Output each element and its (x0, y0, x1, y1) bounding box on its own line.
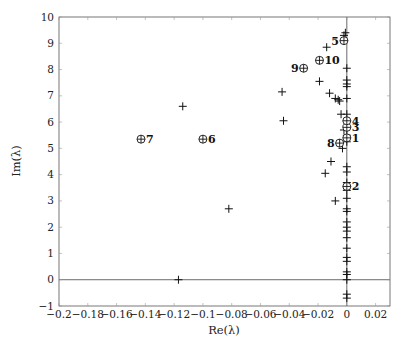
x-tick-label: −0.18 (72, 308, 104, 320)
x-tick-label: −0.1 (190, 308, 216, 320)
y-tick-label: 10 (41, 11, 54, 23)
labeled-eigenvalue-2: 2 (343, 180, 360, 193)
eigenvalue-point (343, 244, 351, 252)
labeled-eigenvalue-6: 6 (199, 133, 216, 146)
point-label: 4 (352, 115, 360, 128)
eigenvalue-point (326, 89, 334, 97)
point-label: 5 (331, 35, 339, 48)
x-tick-label: 0.02 (364, 308, 387, 320)
x-tick-label: −0.04 (273, 308, 305, 320)
circled-plus-markers: 12345678910 (137, 35, 360, 194)
eigenvalue-scatter-chart: −0.2−0.18−0.16−0.14−0.12−0.1−0.08−0.06−0… (0, 0, 403, 352)
eigenvalue-point (280, 117, 288, 125)
eigenvalue-point (323, 43, 331, 51)
eigenvalue-point (321, 169, 329, 177)
eigenvalue-point (179, 102, 187, 110)
point-label: 8 (327, 137, 335, 150)
eigenvalue-point (343, 276, 351, 284)
y-tick-label: 7 (47, 89, 54, 101)
y-tick-label: 1 (47, 247, 54, 259)
eigenvalue-point (343, 257, 351, 265)
point-label: 10 (324, 54, 340, 67)
plot-frame (59, 17, 390, 306)
eigenvalue-point (343, 168, 351, 176)
y-tick-label: −1 (39, 300, 54, 312)
plus-markers (174, 29, 350, 302)
eigenvalue-point (343, 294, 351, 302)
x-tick-label: −0.06 (244, 308, 276, 320)
x-tick-label: −0.14 (129, 308, 161, 320)
eigenvalue-point (225, 205, 233, 213)
eigenvalue-point (315, 77, 323, 85)
eigenvalue-point (278, 88, 286, 96)
eigenvalue-point (343, 64, 351, 72)
point-label: 6 (208, 133, 216, 146)
x-tick-label: −0.02 (302, 308, 334, 320)
labeled-eigenvalue-5: 5 (331, 35, 348, 48)
point-label: 7 (146, 133, 154, 146)
point-label: 2 (352, 180, 360, 193)
x-axis-label: Re(λ) (208, 323, 240, 337)
y-tick-label: 5 (47, 142, 54, 154)
labeled-eigenvalue-10: 10 (315, 54, 340, 67)
x-tick-label: −0.12 (158, 308, 190, 320)
labeled-eigenvalue-7: 7 (137, 133, 154, 146)
y-tick-label: 3 (47, 194, 54, 206)
point-label: 9 (291, 62, 299, 75)
eigenvalue-point (174, 276, 182, 284)
plot-area: −0.2−0.18−0.16−0.14−0.12−0.1−0.08−0.06−0… (39, 11, 390, 321)
eigenvalue-point (343, 194, 351, 202)
y-axis-label: Im(λ) (9, 145, 23, 177)
y-tick-label: 8 (47, 63, 54, 75)
eigenvalue-point (343, 94, 351, 102)
eigenvalue-point (331, 197, 339, 205)
reference-lines (59, 17, 390, 306)
y-tick-label: 2 (47, 221, 54, 233)
x-tick-label: −0.16 (100, 308, 132, 320)
y-tick-label: 4 (47, 168, 54, 180)
y-tick-label: 6 (47, 116, 54, 128)
x-tick-label: −0.08 (216, 308, 248, 320)
eigenvalue-point (343, 234, 351, 242)
x-tick-label: 0 (343, 308, 350, 320)
y-tick-label: 9 (47, 37, 54, 49)
y-tick-label: 0 (47, 273, 54, 285)
labeled-eigenvalue-9: 9 (291, 62, 308, 75)
eigenvalue-point (327, 158, 335, 166)
